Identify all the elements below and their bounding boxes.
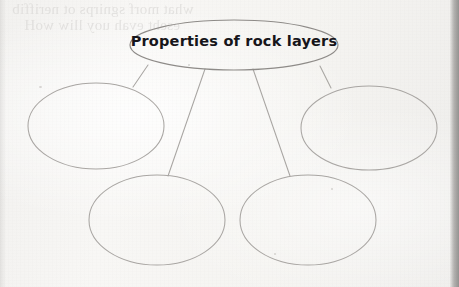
connector-to-bottom-left-node	[168, 69, 205, 176]
connector-to-bottom-right-node	[253, 69, 290, 176]
connector-to-right-node	[320, 66, 331, 88]
connector-to-left-node	[133, 65, 148, 87]
scanned-worksheet-page: what morf sgnirps ot neriffib eseht evah…	[0, 0, 459, 287]
branch-node-bottom-left-ellipse[interactable]	[89, 175, 225, 265]
branch-node-left-ellipse[interactable]	[28, 83, 164, 169]
branch-node-right-ellipse[interactable]	[301, 86, 437, 170]
branch-node-bottom-right-ellipse[interactable]	[240, 175, 376, 265]
center-node-label: Properties of rock layers	[130, 33, 338, 49]
